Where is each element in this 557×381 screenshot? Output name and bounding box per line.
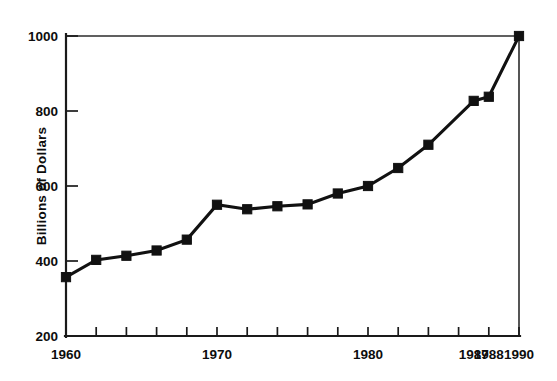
data-point-marker: [303, 200, 312, 209]
data-point-marker: [424, 140, 433, 149]
x-tick-label: 1960: [51, 347, 81, 362]
x-tick-label: 1988: [474, 347, 505, 362]
x-tick-label: 1990: [504, 347, 534, 362]
data-point-marker: [273, 202, 282, 211]
data-point-marker: [469, 96, 478, 105]
y-axis-title: Billions of Dollars: [34, 127, 49, 246]
y-tick-label: 200: [35, 329, 58, 344]
x-tick-label: 1980: [353, 347, 383, 362]
data-point-marker: [484, 92, 493, 101]
data-point-marker: [243, 205, 252, 214]
data-point-marker: [363, 181, 372, 190]
x-tick-label: 1970: [202, 347, 232, 362]
data-point-marker: [182, 235, 191, 244]
y-axis-title-text: Billions of Dollars: [34, 127, 49, 246]
chart-canvas: 1000800600400200 19601970198019871988199…: [0, 0, 557, 381]
line-chart: 1000800600400200 19601970198019871988199…: [0, 0, 557, 381]
data-point-marker: [92, 255, 101, 264]
data-point-marker: [394, 163, 403, 172]
data-point-marker: [61, 273, 70, 282]
data-point-marker: [514, 31, 523, 40]
y-tick-label: 800: [35, 104, 58, 119]
y-tick-label: 400: [35, 254, 58, 269]
data-point-marker: [212, 200, 221, 209]
y-tick-label: 1000: [28, 29, 58, 44]
data-point-marker: [152, 246, 161, 255]
chart-background: [0, 0, 557, 381]
data-point-marker: [333, 189, 342, 198]
data-point-marker: [122, 251, 131, 260]
